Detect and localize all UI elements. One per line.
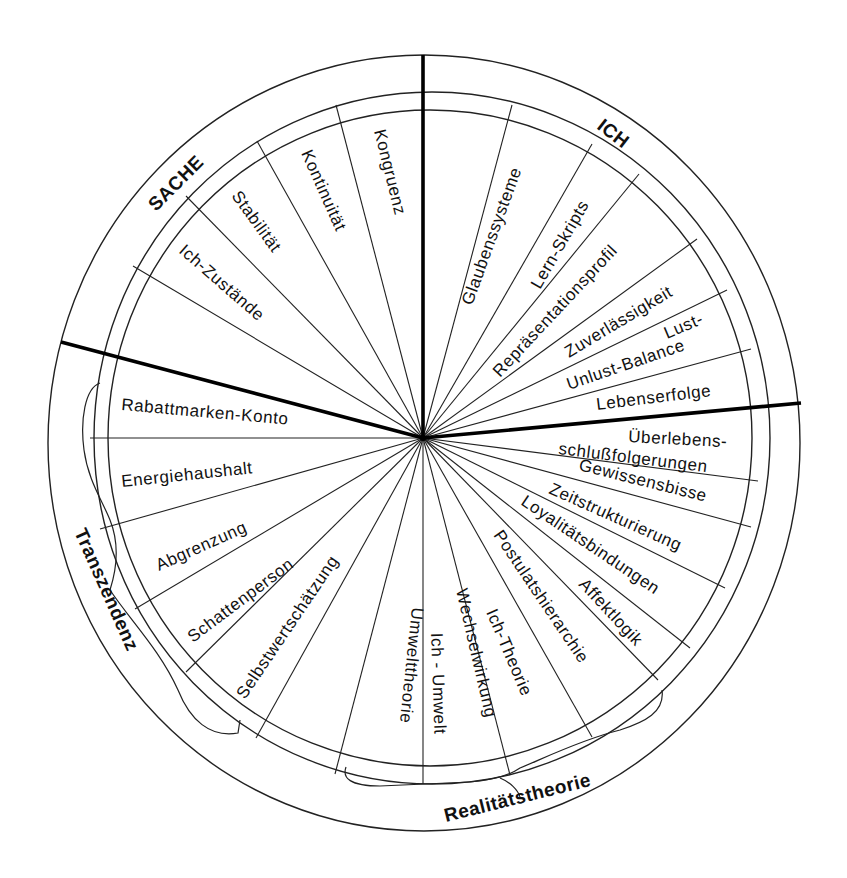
segment-stabilitaet: Stabilität (228, 187, 285, 256)
segment-ueberlebens: Überlebens- (628, 427, 728, 451)
segment-lust: Lust- (661, 309, 706, 342)
category-sache: SACHE (144, 151, 208, 215)
segment-ich-umwelt: Ich - Umwelt (427, 632, 450, 734)
category-ich: ICH (594, 115, 634, 153)
segment-abgrenzung: Abgrenzung (153, 518, 250, 575)
segment-umwelttheorie: Umwelttheorie (396, 607, 427, 725)
quadrant-dividers (61, 55, 801, 438)
segment-energiehaushalt: Energiehaushalt (120, 458, 253, 491)
category-transzendenz: Transzendenz (70, 525, 143, 654)
segment-kongruenz: Kongruenz (370, 127, 410, 217)
segment-wechselwirkung: Wechselwirkung (452, 587, 500, 720)
segment-glaubenssysteme: Glaubenssysteme (458, 165, 525, 308)
category-realitaetstheorie: Realitätstheorie (442, 769, 593, 826)
circular-diagram: SACHE ICH Transzendenz Realitätstheorie … (0, 0, 847, 878)
center-hub (420, 435, 426, 441)
segment-kontinuitaet: Kontinuität (297, 147, 350, 234)
brace-realitaetstheorie (345, 690, 662, 786)
segment-ich-zustaende: Ich-Zustände (175, 241, 268, 325)
segment-rabattmarken-konto: Rabattmarken-Konto (121, 395, 290, 429)
